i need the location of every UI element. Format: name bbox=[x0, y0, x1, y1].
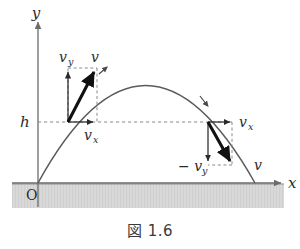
svg-text:y: y bbox=[67, 56, 74, 67]
svg-text:y: y bbox=[201, 165, 208, 176]
curve-direction-arrow-up bbox=[99, 68, 106, 74]
figure-container: y x O h v y v v x v x − v y v 図 1.6 bbox=[0, 0, 300, 249]
svg-text:x: x bbox=[248, 121, 254, 132]
descending-vx-label: v x bbox=[239, 114, 254, 132]
svg-text:v: v bbox=[239, 114, 247, 130]
curve-direction-arrow-down bbox=[200, 96, 207, 105]
ground-region bbox=[12, 184, 284, 208]
x-axis-label: x bbox=[288, 174, 297, 192]
ascending-vx-label: v x bbox=[84, 127, 99, 145]
descending-v-label: v bbox=[254, 157, 262, 173]
ascending-vector-group bbox=[68, 68, 97, 122]
svg-text:− v: − v bbox=[178, 158, 202, 174]
origin-label: O bbox=[26, 187, 37, 203]
svg-text:x: x bbox=[93, 134, 99, 145]
descending-vector-group bbox=[208, 122, 232, 165]
descending-v-arrow bbox=[208, 122, 230, 161]
figure-caption: 図 1.6 bbox=[0, 219, 300, 240]
descending-vy-label: − v y bbox=[178, 158, 208, 176]
svg-text:v: v bbox=[84, 127, 92, 143]
ascending-vy-label: v y bbox=[59, 49, 74, 67]
trajectory-curve bbox=[38, 68, 255, 183]
height-label: h bbox=[20, 113, 30, 131]
ascending-v-arrow bbox=[68, 72, 94, 122]
ascending-v-label: v bbox=[91, 49, 99, 65]
y-axis-label: y bbox=[31, 4, 41, 22]
svg-text:v: v bbox=[59, 49, 67, 65]
projectile-motion-diagram: y x O h v y v v x v x − v y v bbox=[0, 0, 300, 249]
